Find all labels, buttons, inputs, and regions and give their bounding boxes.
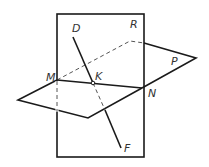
- label-d: D: [72, 22, 80, 35]
- line-to-f: [105, 110, 121, 148]
- plane-p-back-edge: [142, 43, 196, 88]
- label-m: M: [46, 71, 56, 84]
- plane-r-rectangle: [57, 14, 144, 157]
- geometry-diagram: D R M K N P F: [0, 0, 209, 167]
- label-f: F: [124, 142, 131, 155]
- line-dk: [73, 37, 93, 83]
- label-p: P: [171, 55, 178, 68]
- line-k-hidden: [93, 83, 105, 110]
- label-r: R: [130, 18, 138, 31]
- label-n: N: [148, 87, 156, 100]
- label-k: K: [95, 70, 103, 83]
